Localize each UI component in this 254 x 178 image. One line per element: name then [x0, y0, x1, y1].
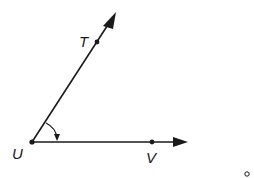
point-v: [150, 140, 155, 145]
label-v: V: [146, 149, 158, 166]
degree-mark: [245, 172, 249, 176]
arrowhead-ut-icon: [103, 12, 116, 29]
label-t: T: [79, 33, 90, 50]
ray-ut: [32, 20, 111, 142]
label-u: U: [12, 145, 23, 162]
angle-diagram: T U V: [0, 0, 254, 178]
point-t: [95, 40, 100, 45]
arrowhead-uv-icon: [173, 137, 188, 147]
angle-arc-arrow-icon: [54, 134, 60, 141]
point-u: [29, 139, 34, 144]
